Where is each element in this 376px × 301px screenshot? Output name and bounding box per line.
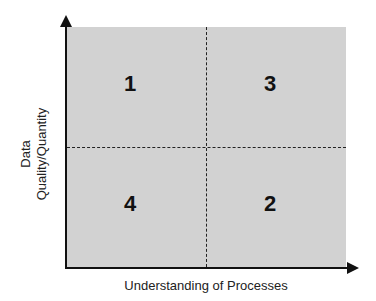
x-axis-label: Understanding of Processes: [66, 278, 346, 293]
y-axis-line: [65, 22, 67, 269]
quadrant-plot-area: 1 3 4 2: [67, 27, 346, 267]
horizontal-divider: [67, 147, 346, 148]
quadrant-label-top-right: 3: [255, 71, 285, 97]
x-axis-arrow-icon: [347, 262, 359, 274]
x-axis-line: [65, 267, 349, 269]
y-axis-arrow-icon: [60, 15, 72, 27]
y-axis-label-line2: Quality/Quantity: [34, 74, 50, 234]
y-axis-label-line1: Data: [18, 74, 34, 234]
quadrant-label-bottom-right: 2: [255, 191, 285, 217]
quadrant-label-bottom-left: 4: [115, 191, 145, 217]
y-axis-label: Data Quality/Quantity: [18, 74, 50, 234]
quadrant-label-top-left: 1: [115, 71, 145, 97]
